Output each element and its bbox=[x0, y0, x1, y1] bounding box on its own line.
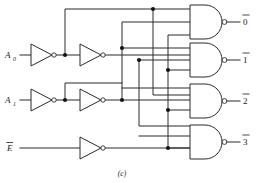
inverting-bubble-icon bbox=[101, 98, 105, 102]
input-label-a0-text: A bbox=[4, 50, 11, 60]
decoder-circuit-svg: A 0 A 1 E 0 1 2 3 (c) bbox=[0, 0, 257, 183]
inverting-bubble-icon bbox=[52, 98, 56, 102]
inverter-triangle bbox=[31, 89, 52, 111]
output-label-3: 3 bbox=[243, 135, 250, 147]
output-label-0-text: 0 bbox=[243, 17, 248, 27]
junction-dot bbox=[63, 53, 67, 57]
input-label-e: E bbox=[6, 143, 13, 154]
junction-dot bbox=[120, 46, 124, 50]
output-label-0: 0 bbox=[243, 15, 250, 27]
inverter-triangle bbox=[80, 137, 101, 159]
figure-caption: (c) bbox=[118, 169, 127, 178]
nand-body bbox=[190, 5, 222, 39]
inverting-bubble-icon bbox=[222, 20, 227, 25]
nand-body bbox=[190, 125, 222, 159]
wire-bus-168-enable bbox=[168, 35, 190, 148]
inverter-a0-stage1[interactable] bbox=[31, 44, 56, 66]
nand-gate-output-2[interactable] bbox=[190, 84, 240, 118]
wire-network bbox=[20, 9, 210, 148]
junction-dot bbox=[166, 108, 170, 112]
nand-gate-output-1[interactable] bbox=[190, 43, 240, 77]
output-label-1: 1 bbox=[243, 53, 250, 65]
junction-dot bbox=[166, 68, 170, 72]
inverter-a1-stage1[interactable] bbox=[31, 89, 56, 111]
junction-dot bbox=[137, 58, 141, 62]
input-label-a0: A 0 bbox=[4, 50, 16, 62]
inverting-bubble-icon bbox=[222, 58, 227, 63]
junction-dot bbox=[63, 98, 67, 102]
inverter-triangle bbox=[80, 44, 101, 66]
inverter-triangle bbox=[80, 89, 101, 111]
inverting-bubble-icon bbox=[101, 53, 105, 57]
inverting-bubble-icon bbox=[222, 140, 227, 145]
output-label-2-text: 2 bbox=[243, 96, 248, 106]
junction-dot bbox=[120, 98, 124, 102]
inverter-triangle bbox=[31, 44, 52, 66]
inverting-bubble-icon bbox=[222, 99, 227, 104]
inverting-bubble-icon bbox=[101, 146, 105, 150]
output-label-2: 2 bbox=[243, 94, 250, 106]
input-label-e-text: E bbox=[6, 143, 13, 153]
junction-dots bbox=[63, 7, 170, 150]
input-label-a1-subscript: 1 bbox=[13, 101, 16, 107]
output-label-1-text: 1 bbox=[243, 55, 248, 65]
nand-body bbox=[190, 43, 222, 77]
inverter-a0-stage2[interactable] bbox=[80, 44, 105, 66]
input-label-a0-subscript: 0 bbox=[13, 56, 16, 62]
output-label-3-text: 3 bbox=[243, 137, 248, 147]
nand-gate-output-0[interactable] bbox=[190, 5, 240, 39]
input-label-a1-text: A bbox=[4, 95, 11, 105]
inverter-a1-stage2[interactable] bbox=[80, 89, 105, 111]
input-label-a1: A 1 bbox=[4, 95, 16, 107]
nand-body bbox=[190, 84, 222, 118]
nand-gate-output-3[interactable] bbox=[190, 125, 240, 159]
junction-dot bbox=[166, 146, 170, 150]
inverting-bubble-icon bbox=[52, 53, 56, 57]
inverter-enable[interactable] bbox=[80, 137, 105, 159]
junction-dot bbox=[151, 7, 155, 11]
logic-diagram-figure: A 0 A 1 E 0 1 2 3 (c) bbox=[0, 0, 257, 183]
